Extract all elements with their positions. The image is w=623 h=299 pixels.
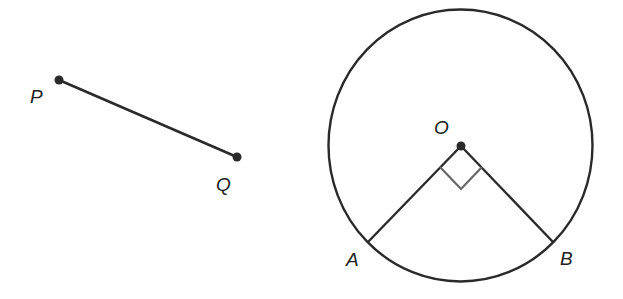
label-b: B: [560, 248, 573, 269]
geometry-diagram: P Q O A B: [0, 0, 623, 299]
point-q: [233, 153, 242, 162]
segment-pq: [59, 80, 237, 157]
point-p: [55, 76, 64, 85]
label-p: P: [30, 86, 43, 107]
label-q: Q: [216, 174, 231, 195]
radius-ob: [461, 146, 553, 242]
label-a: A: [345, 249, 359, 270]
label-o: O: [434, 117, 449, 138]
right-angle-marker: [440, 167, 482, 189]
point-o: [457, 142, 466, 151]
radius-oa: [368, 146, 461, 242]
